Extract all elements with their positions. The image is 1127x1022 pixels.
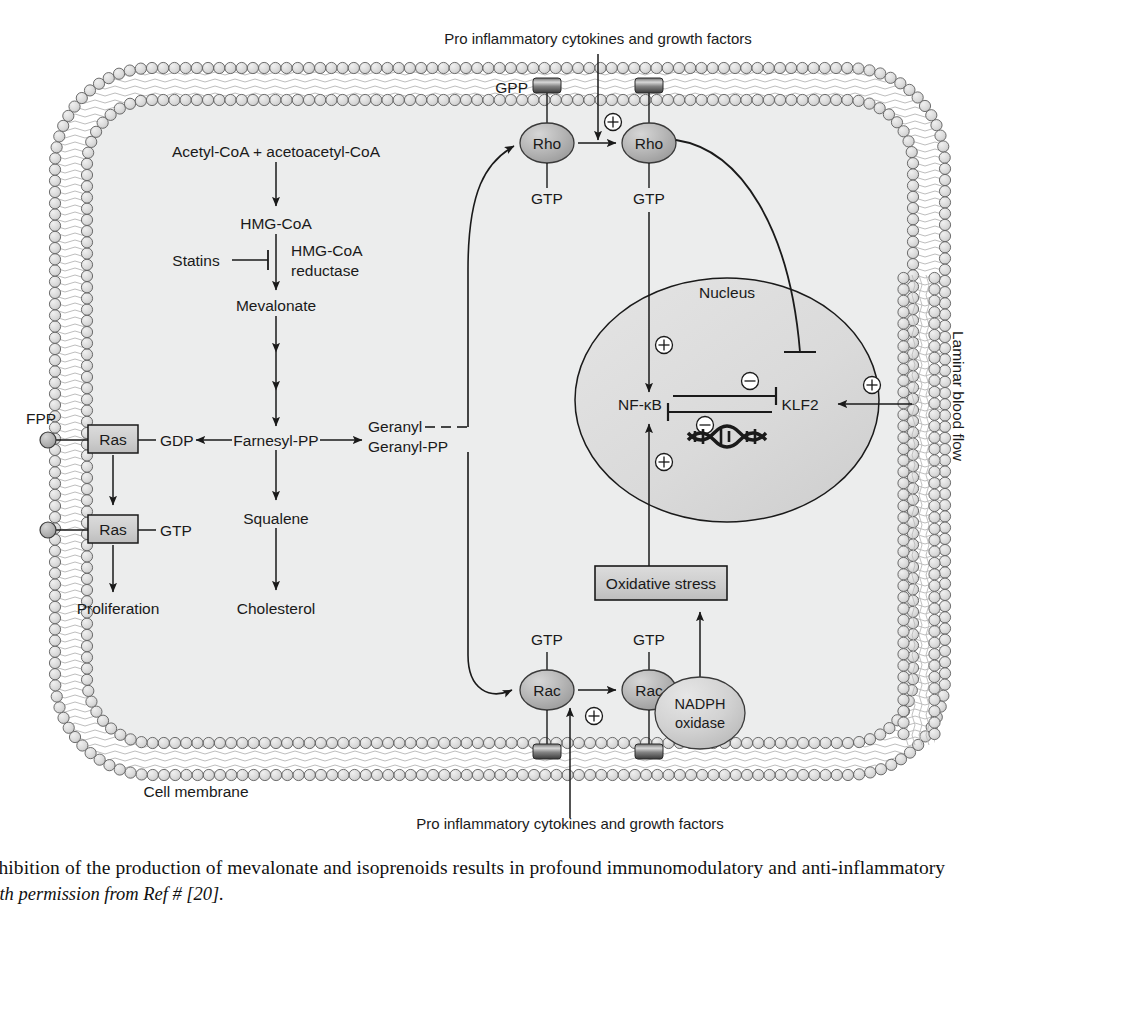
- minus-sign-nfkb-klf2: [697, 417, 714, 434]
- nadph-label-line2: oxidase: [675, 715, 725, 731]
- gpp-anchor-rac2: [635, 744, 663, 759]
- bottom-stimulus-label: Pro inflammatory cytokines and growth fa…: [416, 815, 724, 832]
- node-geranyl-line2: Geranyl-PP: [368, 438, 448, 455]
- caption-line-2: with permission from Ref # [20].: [0, 881, 1127, 907]
- node-squalene: Squalene: [243, 510, 309, 527]
- node-mevalonate: Mevalonate: [236, 297, 316, 314]
- nfkb-label: NF-κB: [618, 396, 662, 413]
- plus-sign-top-stimulus: [605, 114, 622, 131]
- rac2-nucleotide: GTP: [633, 631, 665, 648]
- ras1-label: Ras: [99, 431, 127, 448]
- node-acetyl-coa: Acetyl-CoA + acetoacetyl-CoA: [172, 143, 381, 160]
- fpp-anchor-2: [40, 522, 56, 538]
- rho2-label: Rho: [635, 135, 663, 152]
- vascular-membrane: [898, 272, 940, 745]
- enzyme-label-line2: reductase: [291, 262, 359, 279]
- gpp-anchor-rho2: [635, 78, 663, 93]
- top-stimulus-label: Pro inflammatory cytokines and growth fa…: [444, 30, 752, 47]
- node-hmg-coa: HMG-CoA: [240, 215, 312, 232]
- figure-caption: Inhibition of the production of mevalona…: [0, 855, 1127, 907]
- gpp-label: GPP: [495, 79, 528, 96]
- laminar-blood-flow-label: Laminar blood flow: [950, 331, 967, 462]
- rho1-label: Rho: [533, 135, 561, 152]
- node-proliferation: Proliferation: [77, 600, 160, 617]
- plus-sign-oxstress-nfkb: [656, 454, 673, 471]
- node-cholesterol: Cholesterol: [237, 600, 315, 617]
- gpp-anchor-rac1: [533, 744, 561, 759]
- plus-sign-rho2-nfkb: [656, 337, 673, 354]
- node-farnesyl-pp: Farnesyl-PP: [233, 432, 318, 449]
- ras2-nucleotide: GTP: [160, 522, 192, 539]
- ras2-label: Ras: [99, 521, 127, 538]
- rac2-label: Rac: [635, 682, 663, 699]
- caption-line-1: Inhibition of the production of mevalona…: [0, 855, 1127, 881]
- plus-sign-bottom-stimulus: [586, 708, 603, 725]
- nucleus-label: Nucleus: [699, 284, 755, 301]
- rac1-nucleotide: GTP: [531, 631, 563, 648]
- rac1-label: Rac: [533, 682, 561, 699]
- oxidative-stress-label: Oxidative stress: [606, 575, 717, 592]
- figure-root: Nucleus Acetyl-CoA + acetoacetyl-CoA HMG…: [0, 0, 1127, 1022]
- ras1-nucleotide: GDP: [160, 432, 194, 449]
- node-geranyl-line1: Geranyl: [368, 418, 422, 435]
- rho2-nucleotide: GTP: [633, 190, 665, 207]
- fpp-anchor-1: [40, 432, 56, 448]
- minus-sign-klf2-nfkb: [742, 373, 759, 390]
- node-statins: Statins: [172, 252, 220, 269]
- klf2-label: KLF2: [781, 396, 818, 413]
- rho1-nucleotide: GTP: [531, 190, 563, 207]
- fpp-label: FPP: [26, 410, 56, 427]
- nadph-oxidase-node: [655, 677, 745, 749]
- cell-membrane-label: Cell membrane: [143, 783, 248, 800]
- gpp-anchor-rho1: [533, 78, 561, 93]
- enzyme-label-line1: HMG-CoA: [291, 242, 363, 259]
- plus-sign-laminar: [864, 377, 881, 394]
- nadph-label-line1: NADPH: [675, 696, 726, 712]
